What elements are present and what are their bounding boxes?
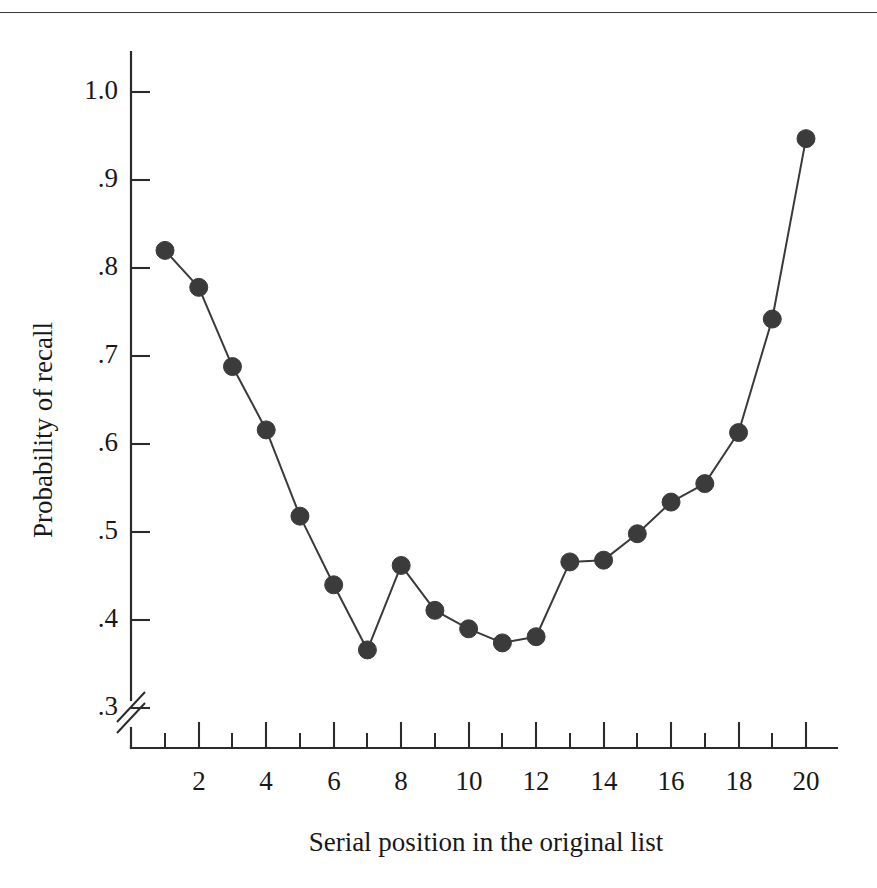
data-point bbox=[696, 475, 714, 493]
x-tick-label: 10 bbox=[456, 766, 483, 796]
x-tick-label: 12 bbox=[523, 766, 550, 796]
x-tick-label: 14 bbox=[591, 766, 619, 796]
data-point bbox=[527, 628, 545, 646]
chart-canvas: 1.0 .9 .8 .7 .6 .5 .4 .3 Probability of … bbox=[0, 0, 877, 888]
y-tick-label: .9 bbox=[98, 163, 118, 193]
x-axis-title: Serial position in the original list bbox=[309, 827, 664, 857]
data-point bbox=[797, 130, 815, 148]
data-point bbox=[628, 525, 646, 543]
data-point bbox=[460, 620, 478, 638]
y-tick-label: .3 bbox=[98, 691, 118, 721]
x-axis-group: 2 4 6 8 10 12 14 16 18 20 Serial positio… bbox=[131, 722, 837, 857]
data-point bbox=[223, 358, 241, 376]
data-point bbox=[763, 310, 781, 328]
data-point bbox=[156, 241, 174, 259]
y-tick-labels: 1.0 .9 .8 .7 .6 .5 .4 .3 bbox=[84, 75, 118, 721]
data-point bbox=[190, 278, 208, 296]
y-tick-label: .4 bbox=[98, 603, 119, 633]
data-point bbox=[561, 553, 579, 571]
x-tick-label: 16 bbox=[658, 766, 685, 796]
y-tick-marks bbox=[131, 92, 150, 708]
y-tick-label: .7 bbox=[98, 339, 118, 369]
x-tick-label: 4 bbox=[259, 766, 273, 796]
series-line-probability-of-recall bbox=[165, 139, 806, 650]
y-tick-label: .8 bbox=[98, 251, 118, 281]
data-point bbox=[426, 601, 444, 619]
y-axis-group: 1.0 .9 .8 .7 .6 .5 .4 .3 Probability of … bbox=[28, 52, 150, 748]
y-tick-label: .6 bbox=[98, 427, 118, 457]
data-point bbox=[257, 421, 275, 439]
series-group bbox=[156, 130, 815, 659]
data-point bbox=[392, 556, 410, 574]
x-tick-label: 2 bbox=[192, 766, 206, 796]
y-axis-title: Probability of recall bbox=[28, 322, 58, 538]
data-point bbox=[595, 551, 613, 569]
data-point bbox=[662, 493, 680, 511]
data-point bbox=[493, 634, 511, 652]
x-tick-label: 20 bbox=[793, 766, 820, 796]
data-point bbox=[358, 641, 376, 659]
data-point bbox=[291, 507, 309, 525]
x-tick-label: 18 bbox=[726, 766, 753, 796]
y-tick-label: 1.0 bbox=[84, 75, 118, 105]
serial-position-curve-figure: 1.0 .9 .8 .7 .6 .5 .4 .3 Probability of … bbox=[0, 0, 877, 888]
y-tick-label: .5 bbox=[98, 515, 118, 545]
figure-page: 1.0 .9 .8 .7 .6 .5 .4 .3 Probability of … bbox=[0, 0, 877, 888]
x-tick-label: 8 bbox=[394, 766, 408, 796]
data-point bbox=[730, 424, 748, 442]
x-tick-labels: 2 4 6 8 10 12 14 16 18 20 bbox=[192, 766, 819, 796]
x-tick-label: 6 bbox=[327, 766, 341, 796]
data-point bbox=[325, 576, 343, 594]
series-markers bbox=[156, 130, 815, 659]
